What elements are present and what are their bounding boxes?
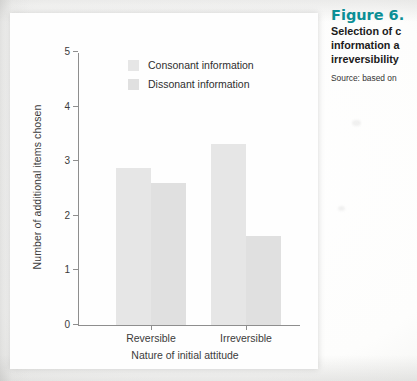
figure-panel: Number of additional items chosen Nature…	[10, 13, 318, 369]
caption-line-3: irreversibility	[331, 53, 417, 67]
y-axis-tick-label: 2	[54, 211, 70, 221]
scan-blemish	[338, 206, 345, 211]
figure-source-note: Source: based on	[331, 73, 417, 83]
legend-label-consonant: Consonant information	[148, 59, 254, 71]
figure-caption: Figure 6. Selection of c information a i…	[331, 8, 417, 83]
figure-number: Figure 6.	[331, 8, 417, 23]
x-axis-tick-label-reversible: Reversible	[96, 332, 206, 344]
y-axis-tick	[73, 269, 78, 270]
x-axis-tick-label-irreversible: Irreversible	[191, 332, 301, 344]
x-axis-tick	[246, 326, 247, 330]
y-axis-tick-label: 1	[54, 265, 70, 275]
y-axis-line	[78, 53, 79, 326]
legend-swatch-icon	[128, 79, 139, 90]
chart-legend: Consonant information Dissonant informat…	[128, 59, 254, 97]
legend-item-consonant: Consonant information	[128, 59, 254, 71]
figure-caption-text: Selection of c information a irreversibi…	[331, 25, 417, 66]
y-axis-tick-label: 3	[54, 156, 70, 166]
bar-reversible-dissonant	[151, 183, 186, 325]
y-axis-tick	[73, 324, 78, 325]
legend-swatch-icon	[128, 60, 139, 71]
y-axis-tick-label: 0	[54, 320, 70, 330]
x-axis-line	[78, 325, 300, 326]
bar-chart: Number of additional items chosen Nature…	[10, 13, 318, 369]
bar-irreversible-dissonant	[246, 236, 281, 325]
y-axis-tick	[73, 215, 78, 216]
y-axis-tick-label: 4	[54, 102, 70, 112]
caption-line-2: information a	[331, 39, 417, 53]
y-axis-title: Number of additional items chosen	[31, 92, 43, 282]
y-axis-tick-label: 5	[54, 47, 70, 57]
y-axis-tick	[73, 106, 78, 107]
scan-blemish	[352, 120, 361, 126]
y-axis-tick	[73, 160, 78, 161]
caption-line-1: Selection of c	[331, 25, 417, 39]
y-axis-tick	[73, 51, 78, 52]
bar-irreversible-consonant	[211, 144, 246, 325]
x-axis-tick	[151, 326, 152, 330]
legend-label-dissonant: Dissonant information	[148, 78, 250, 90]
bar-reversible-consonant	[116, 168, 151, 325]
legend-item-dissonant: Dissonant information	[128, 78, 254, 90]
x-axis-title: Nature of initial attitude	[60, 349, 310, 361]
